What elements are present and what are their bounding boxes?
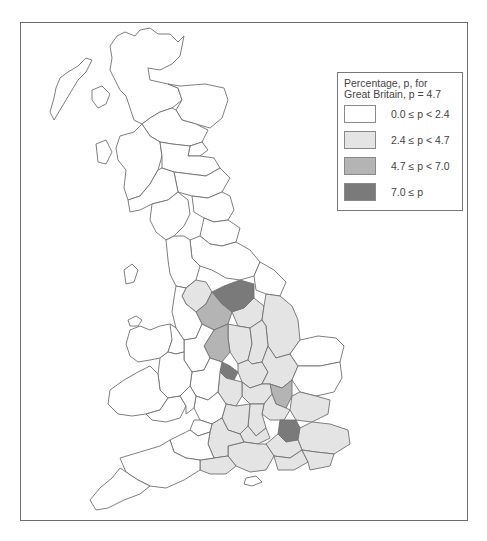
legend-label: 2.4 ≤ p < 4.7 — [391, 134, 450, 146]
region-skye — [92, 86, 110, 108]
legend-item: 0.0 ≤ p < 2.4 — [344, 105, 456, 123]
region-anglesey — [128, 316, 142, 326]
region-isle-of-man — [124, 264, 138, 284]
region-western-isles — [50, 58, 92, 120]
region-suffolk — [292, 362, 342, 396]
region-essex — [290, 392, 330, 422]
legend-swatch-light — [344, 131, 376, 149]
region-isle-of-wight — [244, 476, 262, 486]
legend-item: 4.7 ≤ p < 7.0 — [344, 157, 456, 175]
region-islay-jura — [96, 140, 112, 164]
region-humberside — [254, 262, 286, 296]
legend-item: 2.4 ≤ p < 4.7 — [344, 131, 456, 149]
legend-swatch-dark — [344, 183, 376, 201]
region-hampshire — [228, 442, 274, 472]
legend-label: 4.7 ≤ p < 7.0 — [391, 160, 450, 172]
region-kent — [298, 422, 350, 454]
map-legend: Percentage, p, for Great Britain, p = 4.… — [337, 72, 463, 211]
legend-label: 0.0 ≤ p < 2.4 — [391, 108, 450, 120]
legend-swatch-white — [344, 105, 376, 123]
legend-title-line-2: Great Britain, p = 4.7 — [344, 89, 441, 100]
region-northumberland — [192, 192, 234, 222]
legend-swatch-medium — [344, 157, 376, 175]
legend-item: 7.0 ≤ p — [344, 183, 456, 201]
legend-label: 7.0 ≤ p — [391, 186, 423, 198]
legend-title: Percentage, p, for Great Britain, p = 4.… — [344, 78, 441, 100]
